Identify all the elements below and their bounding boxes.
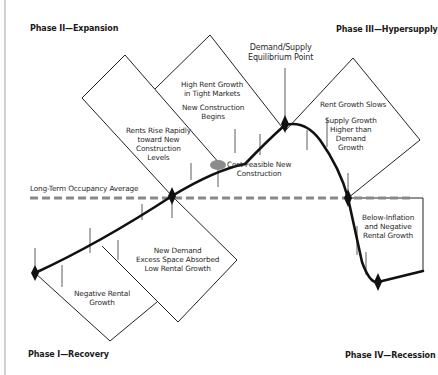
new-construction-callout: New Construction Begins bbox=[182, 103, 244, 121]
phase-3-label: Phase III—Hypersupply bbox=[336, 25, 438, 34]
phase-1-label: Phase I—Recovery bbox=[28, 350, 109, 359]
phase-4-label: Phase IV—Recession bbox=[345, 351, 436, 360]
marker-occupancy-cross-diamond bbox=[168, 187, 176, 205]
equilibrium-callout: Demand/Supply Equilibrium Point bbox=[248, 43, 313, 63]
marker-start-diamond bbox=[31, 265, 39, 281]
negative-rental-callout: Negative Rental Growth bbox=[74, 289, 130, 307]
marker-equilibrium-diamond bbox=[281, 115, 289, 133]
rents-rise-callout: Rents Rise Rapidly toward New Constructi… bbox=[126, 126, 191, 162]
new-demand-callout: New Demand Excess Space Absorbed Low Ren… bbox=[136, 246, 219, 273]
phase-2-label: Phase II—Expansion bbox=[30, 24, 118, 33]
cost-feasible-marker bbox=[210, 160, 226, 170]
below-inflation-callout: Below-Inflation and Negative Rental Grow… bbox=[362, 213, 414, 240]
cost-feasible-callout: Cost-Feasible New Construction bbox=[227, 160, 291, 178]
rent-slows-callout: Rent Growth Slows bbox=[320, 100, 386, 109]
supply-growth-callout: Supply Growth Higher than Demand Growth bbox=[325, 116, 377, 152]
box-below-inflation bbox=[348, 198, 423, 282]
occupancy-average-label: Long-Term Occupancy Average bbox=[30, 184, 138, 193]
marker-bottom-diamond bbox=[374, 273, 382, 291]
high-rent-callout: High Rent Growth in Tight Markets bbox=[181, 80, 243, 98]
